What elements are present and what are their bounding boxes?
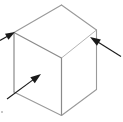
cube-diagram-canvas <box>0 0 123 122</box>
cube-diagram-figure <box>0 0 123 122</box>
stray-speck <box>1 111 3 113</box>
